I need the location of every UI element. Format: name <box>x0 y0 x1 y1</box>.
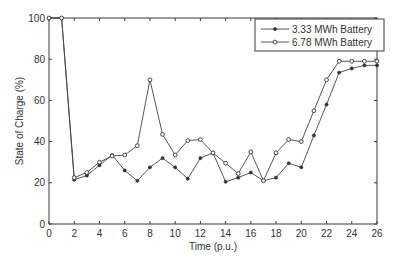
x-axis-label: Time (p.u.) <box>189 241 237 252</box>
y-tick-label: 60 <box>34 95 46 106</box>
legend: 3.33 MWh Battery6.78 MWh Battery <box>255 19 384 51</box>
x-tick-label: 24 <box>346 228 358 239</box>
soc-line-chart: 02468101214161820222426020406080100 Time… <box>0 0 398 263</box>
x-tick-label: 8 <box>147 228 153 239</box>
x-tick-label: 20 <box>296 228 308 239</box>
y-tick-label: 20 <box>34 177 46 188</box>
x-tick-label: 16 <box>245 228 257 239</box>
x-tick-label: 12 <box>195 228 207 239</box>
x-tick-label: 4 <box>97 228 103 239</box>
x-tick-label: 6 <box>122 228 128 239</box>
y-tick-label: 100 <box>28 13 45 24</box>
y-axis-label: State of Charge (%) <box>14 77 25 165</box>
y-tick-label: 40 <box>34 136 46 147</box>
x-tick-label: 10 <box>170 228 182 239</box>
legend-label: 3.33 MWh Battery <box>292 24 372 35</box>
x-tick-label: 2 <box>71 228 77 239</box>
x-tick-label: 14 <box>220 228 232 239</box>
chart-canvas: 02468101214161820222426020406080100 Time… <box>0 0 398 263</box>
y-tick-label: 80 <box>34 54 46 65</box>
x-tick-label: 18 <box>271 228 283 239</box>
x-tick-label: 22 <box>321 228 333 239</box>
y-tick-label: 0 <box>39 219 45 230</box>
x-tick-label: 26 <box>371 228 383 239</box>
x-tick-label: 0 <box>46 228 52 239</box>
legend-label: 6.78 MWh Battery <box>292 37 372 48</box>
